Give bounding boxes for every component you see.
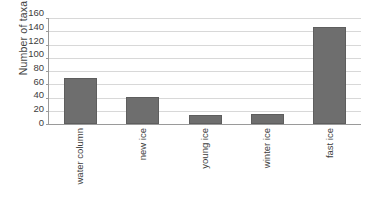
- y-tick-label: 140: [12, 22, 44, 32]
- bar-young-ice[interactable]: [189, 115, 222, 124]
- bar-chart-figure: Number of taxa 160 140 120 100 80 60 40 …: [0, 0, 366, 207]
- bar-new-ice[interactable]: [126, 97, 159, 124]
- bar-slot: [174, 18, 236, 124]
- y-tick-label: 0: [12, 118, 44, 128]
- x-label-slot: new ice: [110, 126, 172, 204]
- x-label-slot: young ice: [173, 126, 235, 204]
- bars-layer: [49, 18, 361, 124]
- bar-water-column[interactable]: [64, 78, 97, 124]
- y-axis-tick-labels: 160 140 120 100 80 60 40 20 0: [12, 13, 44, 125]
- x-tick-label-new-ice: new ice: [136, 128, 147, 160]
- bar-slot: [111, 18, 173, 124]
- bar-slot: [49, 18, 111, 124]
- y-tick-label: 100: [12, 49, 44, 59]
- x-tick-label-young-ice: young ice: [199, 128, 210, 169]
- plot-area: [48, 18, 361, 125]
- y-tick-label: 80: [12, 63, 44, 73]
- bar-slot: [236, 18, 298, 124]
- bar-slot: [299, 18, 361, 124]
- x-label-slot: fast ice: [298, 126, 360, 204]
- x-label-slot: winter ice: [235, 126, 297, 204]
- bar-fast-ice[interactable]: [313, 27, 346, 124]
- y-tick-label: 60: [12, 77, 44, 87]
- y-tick-label: 160: [12, 8, 44, 18]
- x-tick-label-fast-ice: fast ice: [323, 128, 334, 158]
- x-axis-tick-labels: water column new ice young ice winter ic…: [48, 126, 360, 204]
- x-tick-label-winter-ice: winter ice: [261, 128, 272, 168]
- y-tick-label: 20: [12, 104, 44, 114]
- y-tick-label: 120: [12, 36, 44, 46]
- y-tick-label: 40: [12, 90, 44, 100]
- x-tick-label-water-column: water column: [74, 128, 85, 185]
- bar-winter-ice[interactable]: [251, 114, 284, 124]
- x-label-slot: water column: [48, 126, 110, 204]
